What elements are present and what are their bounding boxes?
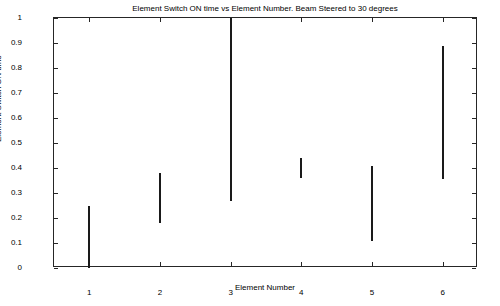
x-axis-tick-mark (231, 262, 232, 266)
y-axis-tick-mark (54, 193, 58, 194)
y-axis-tick-mark (54, 43, 58, 44)
x-axis-tick-mark (160, 262, 161, 266)
y-axis-tick-label: 0.3 (0, 188, 22, 197)
y-axis-tick-mark (54, 118, 58, 119)
y-axis-tick-label: 0 (0, 263, 22, 272)
y-axis-tick-mark (54, 68, 58, 69)
x-axis-tick-mark (443, 18, 444, 22)
y-axis-tick-mark (472, 143, 476, 144)
y-axis-tick-mark (472, 268, 476, 269)
y-axis-tick-label: 0.2 (0, 213, 22, 222)
bar-element-6 (442, 46, 444, 180)
y-axis-tick-mark (54, 143, 58, 144)
y-axis-tick-label: 0.7 (0, 88, 22, 97)
bar-element-4 (300, 158, 302, 178)
x-axis-tick-mark (89, 18, 90, 22)
bar-element-5 (371, 166, 373, 241)
y-axis-tick-mark (472, 193, 476, 194)
x-axis-tick-mark (443, 262, 444, 266)
x-axis-label: Element Number (53, 283, 477, 292)
chart-figure: Element Switch ON time vs Element Number… (0, 0, 500, 306)
y-axis-tick-label: 0.9 (0, 38, 22, 47)
y-axis-tick-mark (472, 68, 476, 69)
bar-element-3 (230, 18, 232, 201)
x-axis-tick-mark (301, 262, 302, 266)
y-axis-tick-label: 0.4 (0, 163, 22, 172)
plot-area: 00.10.20.30.40.50.60.70.80.91123456 (53, 17, 477, 267)
y-axis-tick-label: 0.5 (0, 138, 22, 147)
y-axis-tick-mark (472, 218, 476, 219)
bar-element-2 (159, 173, 161, 223)
bar-element-1 (88, 206, 90, 269)
x-axis-tick-mark (372, 18, 373, 22)
y-axis-tick-mark (54, 93, 58, 94)
y-axis-tick-mark (472, 243, 476, 244)
y-axis-tick-label: 0.8 (0, 63, 22, 72)
y-axis-tick-label: 1 (0, 13, 22, 22)
chart-title: Element Switch ON time vs Element Number… (53, 3, 477, 14)
y-axis-tick-mark (472, 118, 476, 119)
y-axis-tick-mark (54, 243, 58, 244)
y-axis-tick-mark (472, 93, 476, 94)
x-axis-tick-mark (301, 18, 302, 22)
y-axis-tick-mark (54, 268, 58, 269)
y-axis-tick-mark (472, 168, 476, 169)
x-axis-tick-mark (160, 18, 161, 22)
y-axis-tick-mark (54, 168, 58, 169)
y-axis-tick-mark (472, 43, 476, 44)
x-axis-tick-mark (372, 262, 373, 266)
y-axis-tick-label: 0.6 (0, 113, 22, 122)
y-axis-tick-mark (54, 18, 58, 19)
y-axis-tick-mark (54, 218, 58, 219)
y-axis-tick-mark (472, 18, 476, 19)
y-axis-tick-label: 0.1 (0, 238, 22, 247)
